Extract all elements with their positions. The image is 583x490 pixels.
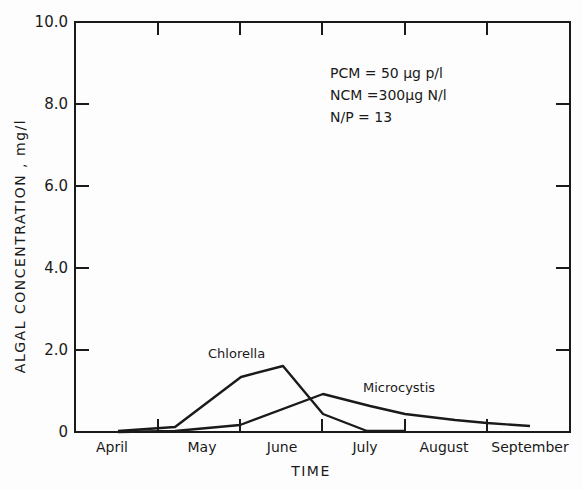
month-may: May — [188, 439, 217, 455]
plot-frame — [75, 22, 570, 432]
series-microcystis-line — [118, 394, 530, 432]
month-april: April — [96, 439, 128, 455]
y-tick-6: 6.0 — [44, 177, 68, 195]
chart: 0 2.0 4.0 6.0 8.0 10.0 April May June Ju… — [0, 0, 583, 490]
y-tick-0: 0 — [58, 423, 68, 441]
x-axis-title: TIME — [290, 463, 331, 479]
month-august: August — [420, 439, 470, 455]
month-june: June — [266, 439, 298, 455]
series-label-chlorella: Chlorella — [208, 346, 265, 361]
y-tick-10: 10.0 — [35, 13, 68, 31]
y-axis-title: ALGAL CONCENTRATION , mg/l — [12, 119, 28, 373]
y-ticks-left — [75, 104, 89, 350]
y-tick-8: 8.0 — [44, 95, 68, 113]
series-label-microcystis: Microcystis — [363, 380, 435, 395]
month-july: July — [351, 439, 377, 455]
annotation-np: N/P = 13 — [330, 109, 392, 125]
series-chlorella-line — [118, 366, 405, 431]
annotation-ncm: NCM =300µg N/l — [330, 87, 447, 103]
annotation-pcm: PCM = 50 µg p/l — [330, 65, 443, 81]
month-september: September — [491, 439, 569, 455]
y-tick-2: 2.0 — [44, 341, 68, 359]
y-ticks-right — [556, 104, 570, 350]
y-tick-4: 4.0 — [44, 259, 68, 277]
x-ticks-top — [158, 22, 487, 35]
x-ticks-bottom — [158, 419, 487, 432]
